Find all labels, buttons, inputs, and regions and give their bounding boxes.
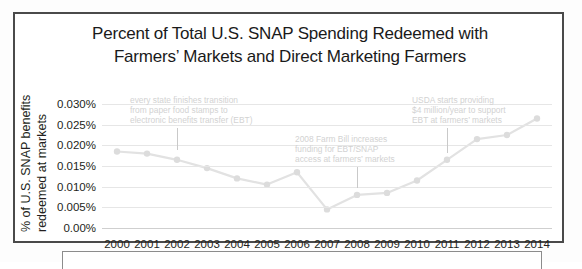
- chart-title-line-1: Percent of Total U.S. SNAP Spending Rede…: [40, 22, 540, 45]
- data-point-2010: [414, 177, 420, 183]
- data-point-2001: [144, 150, 150, 156]
- data-point-2014: [534, 115, 540, 121]
- data-point-2013: [504, 132, 510, 138]
- plot-area: 0.030%0.025%0.020%0.015%0.010%0.005%0.00…: [102, 104, 552, 228]
- annotation-leader-ebt-transition: [177, 128, 178, 150]
- chart-title-line-2: Farmers’ Markets and Direct Marketing Fa…: [40, 45, 540, 68]
- data-point-2006: [294, 169, 300, 175]
- annotation-ebt-transition-line-1: every state finishes transition: [130, 95, 252, 105]
- data-point-2004: [234, 175, 240, 181]
- x-axis-tick-label-2014: 2014: [515, 238, 559, 250]
- gridline: [102, 166, 552, 167]
- data-point-2008: [354, 192, 360, 198]
- annotation-farm-bill-2008-line-1: 2008 Farm Bill increases: [295, 134, 395, 144]
- y-axis-tick-label: 0.005%: [36, 201, 96, 213]
- y-axis-tick-label: 0.00%: [36, 222, 96, 234]
- annotation-usda-funding-line-2: $4 million/year to support: [412, 105, 506, 115]
- x-axis-line: [102, 228, 552, 229]
- y-axis-title-line-2: redeemed at markets: [35, 114, 49, 232]
- y-axis-tick-label: 0.030%: [36, 98, 96, 110]
- annotation-leader-farm-bill-2008: [357, 167, 358, 188]
- y-axis-tick-label: 0.025%: [36, 119, 96, 131]
- gridline: [102, 207, 552, 208]
- y-axis-tick-label: 0.015%: [36, 160, 96, 172]
- annotation-ebt-transition: every state finishes transitionfrom pape…: [130, 95, 252, 126]
- annotation-farm-bill-2008-line-3: access at farmers’ markets: [295, 154, 395, 164]
- gridline: [102, 187, 552, 188]
- annotation-usda-funding: USDA starts providing$4 million/year to …: [412, 95, 506, 126]
- annotation-ebt-transition-line-3: electronic benefits transfer (EBT): [130, 115, 252, 125]
- annotation-farm-bill-2008: 2008 Farm Bill increasesfunding for EBT/…: [295, 134, 395, 165]
- data-point-2002: [174, 157, 180, 163]
- y-axis-title-line-1: % of U.S. SNAP benefits: [19, 95, 33, 232]
- data-point-2009: [384, 190, 390, 196]
- data-point-2000: [114, 148, 120, 154]
- y-axis-tick-label: 0.020%: [36, 139, 96, 151]
- annotation-ebt-transition-line-2: from paper food stamps to: [130, 105, 252, 115]
- next-figure-frame: [62, 251, 542, 269]
- y-axis-tick-label: 0.010%: [36, 181, 96, 193]
- annotation-usda-funding-line-3: EBT at farmers’ markets: [412, 115, 506, 125]
- annotation-leader-usda-funding: [447, 128, 448, 153]
- data-point-2011: [444, 157, 450, 163]
- chart-title: Percent of Total U.S. SNAP Spending Rede…: [40, 22, 540, 68]
- annotation-farm-bill-2008-line-2: funding for EBT/SNAP: [295, 144, 395, 154]
- annotation-usda-funding-line-1: USDA starts providing: [412, 95, 506, 105]
- data-point-2012: [474, 136, 480, 142]
